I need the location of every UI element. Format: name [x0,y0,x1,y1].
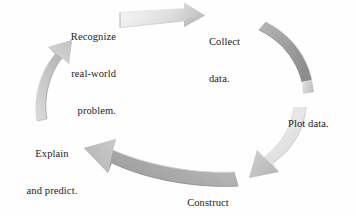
stage-label-plot-line1: Plot data. [288,118,350,130]
cycle-diagram-figure: Recognize real-world problem. Collect da… [0,0,356,216]
stage-label-collect: Collect data. [209,12,261,110]
stage-label-recognize-line3: problem. [54,105,116,117]
stage-label-recognize-line1: Recognize [54,31,116,43]
stage-label-recognize-line2: real-world [54,68,116,80]
arrow-top [120,3,205,28]
stage-label-construct-line1: Construct [177,197,239,209]
stage-label-explain-line2: and predict. [12,185,92,197]
stage-label-explain-line1: Explain [12,148,92,160]
arrow-right-upper [259,22,314,94]
stage-label-explain: Explain and predict. [12,124,92,216]
stage-label-collect-line1: Collect [209,36,261,48]
stage-label-recognize: Recognize real-world problem. [54,7,116,141]
stage-label-construct: Construct model. [177,173,239,216]
stage-label-plot: Plot data. [288,94,350,155]
stage-label-collect-line2: data. [209,73,261,85]
